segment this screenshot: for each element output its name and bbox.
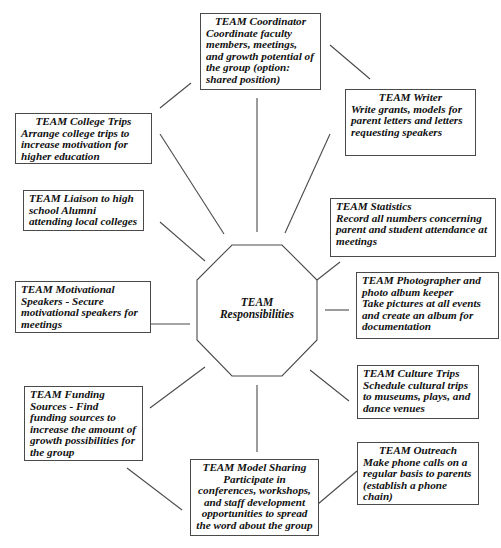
- node-title: TEAM Coordinator: [206, 16, 315, 28]
- connector-modelsharing-outreach: [318, 471, 357, 504]
- node-title: TEAM Liaison to high school Alumni atten…: [29, 193, 138, 228]
- node-title: TEAM Funding Sources - Find funding sour…: [30, 389, 137, 459]
- connector-collegetrips: [160, 134, 224, 234]
- connector-liaison: [160, 222, 205, 261]
- node-title: TEAM Statistics: [336, 201, 490, 213]
- node-culture-trips: TEAM Culture Trips Schedule cultural tri…: [357, 365, 479, 419]
- node-title: TEAM Motivational Speakers - Secure moti…: [21, 284, 145, 330]
- node-title: TEAM Photographer and photo album keeper: [362, 275, 493, 298]
- node-desc: Write grants, models for parent letters …: [351, 104, 470, 139]
- node-desc: Arrange college trips to increase motiva…: [21, 128, 146, 163]
- node-college-trips: TEAM College Trips Arrange college trips…: [15, 113, 152, 164]
- connector-coordinator-writer: [330, 45, 370, 79]
- node-motivational: TEAM Motivational Speakers - Secure moti…: [15, 281, 151, 333]
- node-title: TEAM Model Sharing: [196, 462, 313, 474]
- center-label-line2: Responsibilities: [197, 308, 317, 320]
- node-desc: Coordinate faculty members, meetings, an…: [206, 28, 315, 86]
- node-outreach: TEAM Outreach Make phone calls on a regu…: [357, 442, 479, 505]
- node-title: TEAM Culture Trips: [363, 368, 473, 380]
- connector-statistics: [317, 262, 340, 280]
- node-desc: Participate in conferences, workshops, a…: [196, 474, 313, 532]
- node-desc: Take pictures at all events and create a…: [362, 298, 493, 333]
- node-photographer: TEAM Photographer and photo album keeper…: [356, 272, 499, 339]
- node-model-sharing: TEAM Model Sharing Participate in confer…: [190, 459, 319, 536]
- node-liaison: TEAM Liaison to high school Alumni atten…: [23, 190, 144, 231]
- node-writer: TEAM Writer Write grants, models for par…: [345, 89, 476, 156]
- node-desc: Record all numbers concerning parent and…: [336, 213, 490, 248]
- connector-writer: [285, 134, 330, 233]
- connector-coordinator-collegetrips: [160, 83, 191, 108]
- node-statistics: TEAM Statistics Record all numbers conce…: [330, 198, 496, 257]
- node-desc: Schedule cultural trips to museums, play…: [363, 380, 473, 415]
- connector-funding-modelsharing: [127, 468, 182, 510]
- team-responsibilities-diagram: TEAM Responsibilities TEAM Coordinator C…: [0, 0, 501, 548]
- node-title: TEAM Writer: [351, 92, 470, 104]
- node-title: TEAM College Trips: [21, 116, 146, 128]
- connector-funding: [150, 367, 205, 408]
- node-coordinator: TEAM Coordinator Coordinate faculty memb…: [200, 13, 321, 90]
- node-funding: TEAM Funding Sources - Find funding sour…: [24, 386, 143, 461]
- center-label: TEAM Responsibilities: [197, 296, 317, 320]
- node-desc: Make phone calls on a regular basis to p…: [363, 457, 473, 503]
- node-title: TEAM Outreach: [363, 445, 473, 457]
- connector-culturetrips: [310, 370, 349, 401]
- center-label-line1: TEAM: [197, 296, 317, 308]
